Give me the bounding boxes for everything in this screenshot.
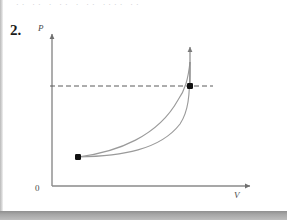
x-axis-label: V [234,190,240,200]
y-axis-label: P [38,23,44,33]
lower-process-curve [78,62,190,157]
start-state-point [75,154,81,160]
end-state-point [187,83,193,89]
pv-diagram-figure: P V 0 [0,0,287,211]
upper-process-curve [78,62,190,157]
scanned-page: ·· ·· · ·· · ·· ···· ·· 2. [0,0,287,220]
origin-label: 0 [35,183,40,193]
scan-edge-bottom [0,211,287,220]
